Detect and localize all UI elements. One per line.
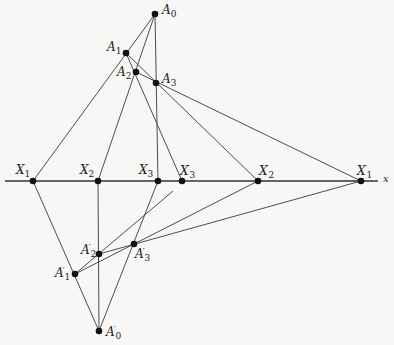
point-a0p: [96, 328, 103, 335]
label-a1: A1: [107, 41, 121, 56]
point-x1: [30, 178, 37, 185]
point-a2p: [96, 251, 103, 258]
projective-construction-diagram: x A0A1A2A3X1X2X3X′3X′2X′1A′2A′3A′1A′0: [0, 0, 394, 345]
label-a0p: A′0: [106, 325, 121, 341]
point-a3: [153, 80, 160, 87]
point-a1: [123, 50, 130, 57]
point-a2: [133, 69, 140, 76]
line-a2p-x1p: [99, 181, 361, 254]
line-a0-x1: [33, 14, 155, 181]
label-a0: A0: [162, 4, 176, 19]
label-x1: X1: [16, 164, 30, 179]
diagram-lines: [0, 0, 394, 345]
label-a2p: A′2: [81, 243, 96, 259]
label-x2: X2: [80, 164, 94, 179]
label-a3p: A′3: [135, 247, 150, 263]
point-x2: [95, 178, 102, 185]
line-a1p-x2p: [75, 181, 258, 274]
label-x3: X3: [139, 164, 153, 179]
label-x1p: X′1: [357, 164, 372, 180]
x-axis-label: x: [383, 174, 389, 184]
point-a0: [152, 11, 159, 18]
label-a1p: A′1: [55, 266, 70, 282]
line-a1-x2p: [126, 53, 258, 181]
line-a1p-segment: [75, 191, 173, 274]
label-a3: A3: [162, 73, 176, 88]
line-a0-x3: [155, 14, 158, 181]
point-x3: [155, 178, 162, 185]
label-a2: A2: [117, 66, 131, 81]
label-x2p: X′2: [259, 164, 274, 180]
line-a2-x1p: [136, 72, 361, 181]
point-a1p: [72, 271, 79, 278]
label-x3p: X′3: [180, 164, 195, 180]
